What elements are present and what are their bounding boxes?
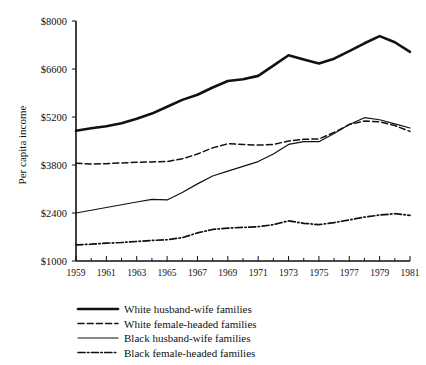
x-tick-label: 1961 — [97, 268, 116, 278]
y-tick-label: $5200 — [41, 112, 67, 123]
y-tick-label: $2400 — [41, 208, 67, 219]
chart-legend: White husband-wife familiesWhite female-… — [78, 303, 257, 359]
legend-label-2: White female-headed families — [124, 318, 257, 330]
x-tick-label: 1959 — [67, 268, 86, 278]
x-tick-label: 1971 — [249, 268, 268, 278]
axis-lines — [72, 21, 410, 261]
x-tick-label: 1973 — [279, 268, 298, 278]
x-tick-label: 1975 — [309, 268, 328, 278]
series-line-3 — [76, 118, 410, 213]
y-tick-label: $3800 — [41, 160, 67, 171]
y-tick-label: $1000 — [41, 256, 67, 267]
x-axis-tick-labels: 1959196119631965196719691971197319751977… — [67, 268, 420, 278]
series-line-4 — [76, 214, 410, 245]
y-axis-tick-labels: $1000$2400$3800$5200$6600$8000 — [41, 16, 67, 267]
legend-label-4: Black female-headed families — [124, 347, 255, 359]
legend-label-1: White husband-wife families — [124, 303, 252, 315]
data-series-group — [76, 36, 410, 245]
series-line-1 — [76, 36, 410, 131]
x-tick-label: 1969 — [218, 268, 237, 278]
x-tick-label: 1981 — [401, 268, 420, 278]
y-axis-title: Per capita income — [16, 105, 28, 184]
x-tick-label: 1977 — [340, 268, 359, 278]
chart-container: Per capita income $1000$2400$3800$5200$6… — [0, 0, 426, 365]
x-tick-label: 1967 — [188, 268, 207, 278]
y-tick-label: $6600 — [41, 64, 67, 75]
x-tick-label: 1965 — [158, 268, 177, 278]
y-tick-label: $8000 — [41, 16, 67, 27]
series-line-2 — [76, 121, 410, 164]
x-tick-label: 1979 — [370, 268, 389, 278]
y-axis-title-group: Per capita income — [16, 105, 28, 184]
legend-label-3: Black husband-wife families — [124, 332, 250, 344]
line-chart: Per capita income $1000$2400$3800$5200$6… — [0, 0, 426, 365]
x-tick-label: 1963 — [127, 268, 146, 278]
